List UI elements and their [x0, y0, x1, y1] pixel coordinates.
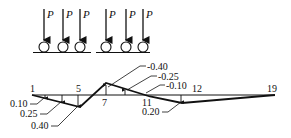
node-label: 1 [30, 83, 35, 94]
node-label: 7 [102, 97, 107, 108]
load-label: P [108, 8, 116, 20]
ordinate-label: 0.40 [31, 120, 49, 131]
load-label: P [82, 8, 90, 20]
load-label: P [128, 8, 136, 20]
roller-icon [58, 42, 68, 52]
load-group-right: P P P [96, 8, 153, 53]
load-label: P [145, 8, 153, 20]
influence-line-diagram: P P P P P P 1 5 7 11 12 19 0.10 0.25 0 [0, 0, 291, 138]
roller-icon [39, 42, 49, 52]
roller-icon [138, 42, 148, 52]
ordinate-label: 0.20 [142, 106, 160, 117]
load-group-left: P P P [33, 8, 91, 53]
load-label: P [46, 8, 54, 20]
load-label: P [65, 8, 73, 20]
ordinate-label: -0.10 [166, 80, 187, 91]
node-label: 5 [76, 83, 81, 94]
roller-icon [101, 42, 111, 52]
roller-icon [121, 42, 131, 52]
ordinate-label: 0.25 [20, 108, 38, 119]
node-label: 19 [267, 83, 277, 94]
roller-icon [75, 42, 85, 52]
node-label: 12 [192, 83, 202, 94]
